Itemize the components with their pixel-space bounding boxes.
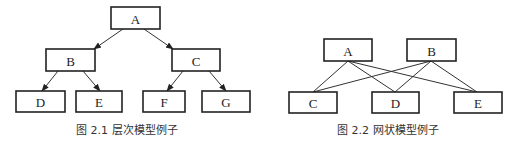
node-e: E (76, 91, 122, 112)
edge-b-e (83, 71, 100, 91)
node-a: A (111, 7, 160, 29)
edge-b-d (42, 71, 58, 91)
node-b: B (407, 39, 456, 61)
edge-c-f (167, 71, 183, 91)
node-label: A (131, 12, 141, 27)
node-label: C (192, 54, 201, 69)
node-label: E (95, 95, 103, 110)
caption-title: 层次模型例子 (112, 123, 178, 137)
edge-a-b (94, 29, 123, 49)
node-d: D (372, 92, 419, 113)
node-label: A (343, 44, 353, 59)
node-e: E (454, 92, 502, 113)
edge-c-g (209, 71, 226, 91)
diagram-canvas: ABCDEFG图 2.1层次模型例子 ABCDE图 2.2网状模型例子 (0, 0, 516, 141)
node-label: F (160, 95, 167, 110)
node-a: A (324, 39, 372, 61)
caption-number: 图 2.2 (337, 124, 369, 137)
node-label: B (427, 44, 436, 59)
edge-b-e (431, 61, 477, 92)
hierarchical-model-figure: ABCDEFG图 2.1层次模型例子 (16, 7, 250, 137)
network-model-figure: ABCDE图 2.2网状模型例子 (289, 39, 502, 137)
caption-number: 图 2.1 (76, 124, 108, 137)
node-label: G (221, 95, 230, 110)
node-c: C (172, 49, 220, 71)
node-label: D (36, 95, 45, 110)
caption-title: 网状模型例子 (373, 123, 439, 137)
edge-a-c (144, 29, 173, 49)
node-label: B (66, 54, 75, 69)
figure-caption: 图 2.2网状模型例子 (337, 123, 439, 137)
node-b: B (46, 49, 95, 71)
figure-caption: 图 2.1层次模型例子 (76, 123, 178, 137)
node-c: C (289, 92, 337, 113)
node-label: E (474, 96, 482, 111)
node-f: F (143, 91, 185, 112)
node-d: D (16, 91, 65, 112)
node-label: C (309, 96, 318, 111)
node-g: G (202, 91, 250, 112)
node-label: D (391, 96, 400, 111)
